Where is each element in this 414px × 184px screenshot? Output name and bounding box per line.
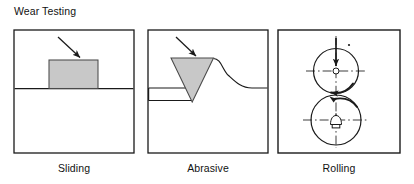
panel-caption-sliding: Sliding [14, 162, 134, 174]
figure-vector-layer [0, 0, 414, 184]
panel-rolling [278, 30, 400, 153]
rolling-reference-dot [348, 44, 350, 46]
panel-abrasive [148, 30, 268, 153]
rolling-upper-hub [333, 68, 339, 74]
panel-sliding [14, 30, 134, 153]
panel-abrasive-frame [148, 30, 268, 153]
panel-caption-rolling: Rolling [278, 162, 400, 174]
panel-caption-abrasive: Abrasive [148, 162, 268, 174]
panel-sliding-frame [14, 30, 134, 153]
sliding-block [49, 60, 98, 89]
wear-testing-figure: Wear Testing [0, 0, 414, 184]
